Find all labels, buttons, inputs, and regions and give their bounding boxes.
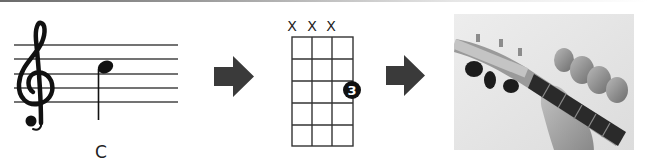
- photo-illustration: [454, 14, 634, 150]
- string-mark-3: X: [326, 18, 336, 34]
- right-arrow-icon: [214, 56, 254, 97]
- arrow-2: [386, 55, 425, 96]
- ukulele-chord-chart: X X X 3: [280, 10, 375, 155]
- chord-diagram-panel: X X X 3: [280, 10, 375, 155]
- treble-clef-icon: [19, 23, 52, 130]
- string-mark-2: X: [307, 18, 317, 34]
- quarter-note-c: [96, 58, 116, 120]
- svg-text:3: 3: [347, 83, 356, 98]
- arrow-1: [214, 56, 254, 97]
- muted-string-marks: X X X: [287, 18, 336, 34]
- right-arrow-icon: [386, 55, 425, 96]
- string-mark-1: X: [287, 18, 297, 34]
- note-name-label: C: [95, 142, 107, 162]
- staff-notation-panel: C: [0, 0, 190, 167]
- ukulele-hand-photo: [454, 14, 634, 150]
- finger-3-marker: 3: [343, 81, 361, 99]
